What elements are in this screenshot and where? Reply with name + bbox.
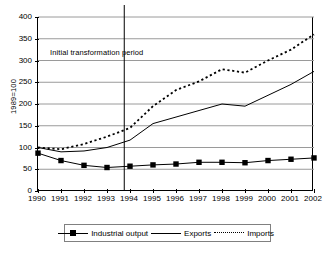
y-axis-tick-label: 400 — [8, 13, 32, 21]
y-axis-tick — [35, 17, 39, 18]
y-axis-tick — [35, 148, 39, 149]
data-point-marker — [242, 160, 247, 165]
x-axis-tick-labels: 1990199119921993199419951996199719981999… — [0, 194, 334, 208]
legend-swatch-exports — [151, 229, 181, 238]
data-point-marker — [173, 161, 178, 166]
plot-area — [37, 17, 313, 191]
y-axis-tick-label: 150 — [8, 122, 32, 130]
data-point-marker — [35, 150, 40, 155]
x-axis-tick-label: 2002 — [298, 194, 328, 204]
series-line-imports — [38, 34, 314, 149]
y-axis-tick — [35, 82, 39, 83]
x-axis-tick — [268, 189, 269, 193]
x-axis-tick — [245, 189, 246, 193]
x-axis-tick — [130, 189, 131, 193]
legend-swatch-imports — [214, 229, 244, 238]
y-axis-tick-label: 350 — [8, 35, 32, 43]
legend-label-exports: Exports — [181, 229, 214, 238]
x-axis-tick — [107, 189, 108, 193]
data-point-marker — [219, 160, 224, 165]
x-axis-tick — [199, 189, 200, 193]
x-axis-tick — [153, 189, 154, 193]
data-point-marker — [104, 165, 109, 170]
y-axis-tick-label: 300 — [8, 57, 32, 65]
y-axis-tick-label: 250 — [8, 78, 32, 86]
y-axis-tick-label: 100 — [8, 144, 32, 152]
y-axis-tick — [35, 61, 39, 62]
x-axis-tick — [314, 189, 315, 193]
data-point-marker — [288, 157, 293, 162]
data-point-marker — [150, 162, 155, 167]
x-axis-tick — [176, 189, 177, 193]
chart-figure: 1989=100 050100150200250300350400 Initia… — [0, 0, 334, 253]
legend-item-industrial-output: Industrial output — [58, 229, 151, 238]
legend-swatch-industrial-output — [58, 229, 88, 238]
legend-item-imports: Imports — [214, 229, 277, 238]
y-axis-tick — [35, 39, 39, 40]
series-line-exports — [38, 71, 314, 151]
x-axis-tick — [38, 189, 39, 193]
y-axis-tick — [35, 104, 39, 105]
legend-label-industrial-output: Industrial output — [88, 229, 151, 238]
data-point-marker — [58, 158, 63, 163]
data-point-marker — [127, 164, 132, 169]
x-axis-tick — [84, 189, 85, 193]
y-axis-tick — [35, 169, 39, 170]
series-canvas — [38, 17, 314, 191]
x-axis-tick — [222, 189, 223, 193]
y-axis-tick — [35, 126, 39, 127]
x-axis-tick — [61, 189, 62, 193]
data-point-marker — [196, 160, 201, 165]
y-axis-tick-label: 200 — [8, 100, 32, 108]
y-axis-tick-label: 50 — [8, 165, 32, 173]
data-point-marker — [311, 155, 316, 160]
data-point-marker — [81, 163, 86, 168]
y-axis-tick-labels: 050100150200250300350400 — [5, 0, 32, 253]
legend-item-exports: Exports — [151, 229, 214, 238]
legend-label-imports: Imports — [244, 229, 277, 238]
x-axis-tick — [291, 189, 292, 193]
chart-legend: Industrial output Exports Imports — [64, 224, 271, 242]
data-point-marker — [265, 158, 270, 163]
